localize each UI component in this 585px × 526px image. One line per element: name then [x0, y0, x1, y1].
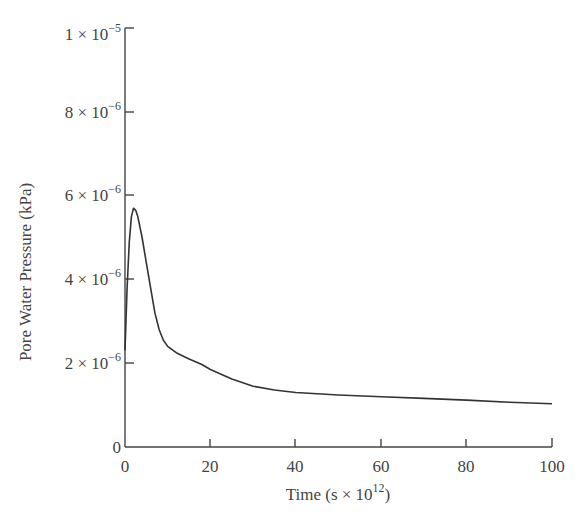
x-axis-title: Time (s × 1012) — [286, 481, 391, 504]
y-tick-4e-6: 4 × 10−6 — [65, 266, 121, 289]
y-tick-labels: 0 2 × 10−6 4 × 10−6 6 × 10−6 8 × 10−6 1 … — [65, 21, 121, 457]
x-tick-0: 0 — [121, 457, 130, 476]
data-series-line — [125, 208, 552, 404]
y-tick-8e-6: 8 × 10−6 — [65, 99, 121, 122]
x-tick-100: 100 — [539, 457, 565, 476]
x-tick-40: 40 — [287, 457, 304, 476]
y-tick-1e-5: 1 × 10−5 — [65, 21, 121, 44]
x-tick-60: 60 — [373, 457, 390, 476]
x-tick-20: 20 — [202, 457, 219, 476]
x-tick-80: 80 — [458, 457, 475, 476]
chart: 0 2 × 10−6 4 × 10−6 6 × 10−6 8 × 10−6 1 … — [0, 0, 585, 526]
y-tick-0: 0 — [113, 438, 122, 457]
y-tick-6e-6: 6 × 10−6 — [65, 182, 121, 205]
axes — [125, 28, 552, 447]
y-axis-title: Pore Water Pressure (kPa) — [16, 183, 35, 361]
x-tick-labels: 0 20 40 60 80 100 — [121, 457, 565, 476]
y-tick-2e-6: 2 × 10−6 — [65, 350, 121, 373]
